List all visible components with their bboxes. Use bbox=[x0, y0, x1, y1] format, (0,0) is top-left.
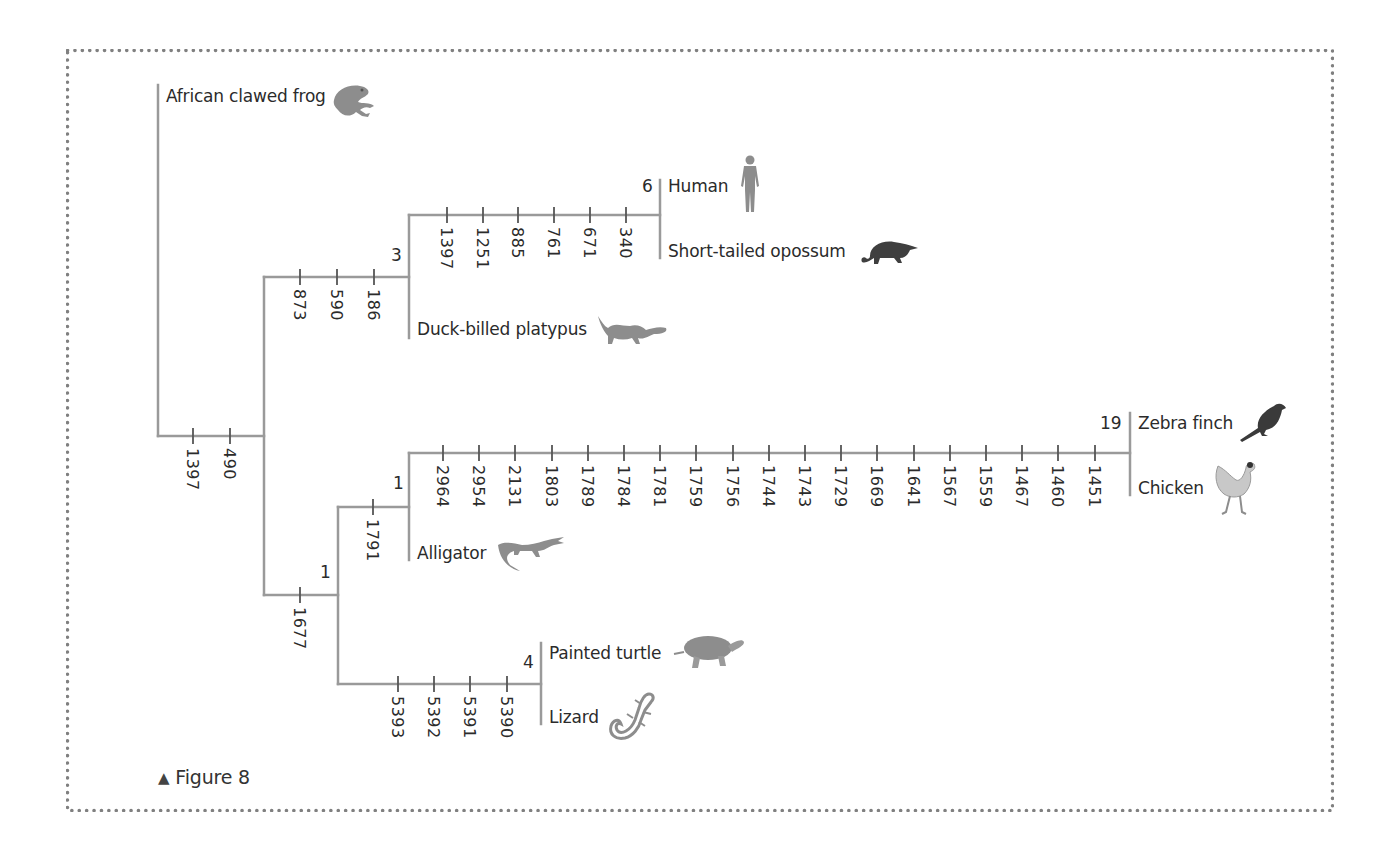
node-count-reptiles: 1 bbox=[320, 562, 331, 582]
taxon-label-short-tailed-opossum: Short-tailed opossum bbox=[668, 241, 846, 261]
taxon-label-human: Human bbox=[668, 176, 728, 196]
taxon-label-painted-turtle: Painted turtle bbox=[549, 643, 661, 663]
alligator-icon bbox=[494, 535, 566, 573]
taxon-label-lizard: Lizard bbox=[549, 707, 599, 727]
tick-label-birds: 1641 bbox=[904, 465, 923, 508]
tick-label-lepidosaur_turtle: 5392 bbox=[424, 696, 443, 739]
tick-label-birds: 1781 bbox=[650, 465, 669, 508]
tick-label-mammals: 590 bbox=[327, 289, 346, 321]
taxon-label-alligator: Alligator bbox=[417, 543, 486, 563]
tick-label-therians: 761 bbox=[544, 227, 563, 259]
tick-label-birds: 1743 bbox=[795, 465, 814, 508]
figure-caption: ▲Figure 8 bbox=[158, 766, 250, 788]
tick-label-archosaurs: 1791 bbox=[363, 519, 382, 562]
tick-label-therians: 340 bbox=[616, 227, 635, 259]
tick-label-lepidosaur_turtle: 5393 bbox=[388, 696, 407, 739]
node-count-finch-chicken: 19 bbox=[1100, 413, 1122, 433]
tick-label-birds: 1559 bbox=[976, 465, 995, 508]
tick-label-birds: 1460 bbox=[1048, 465, 1067, 508]
tick-label-therians: 1397 bbox=[437, 227, 456, 270]
tick-label-birds: 1789 bbox=[578, 465, 597, 508]
chicken-icon bbox=[1212, 460, 1260, 518]
tick-label-birds: 1744 bbox=[759, 465, 778, 508]
tick-label-root: 490 bbox=[220, 448, 239, 480]
tick-label-mammals: 873 bbox=[290, 289, 309, 321]
taxon-label-duck-billed-platypus: Duck-billed platypus bbox=[417, 319, 587, 339]
tick-label-lepidosaur_turtle: 5390 bbox=[497, 696, 516, 739]
tick-label-therians: 671 bbox=[580, 227, 599, 259]
phylogenetic-tree-figure: African clawed frog Human Short-tailed o… bbox=[0, 0, 1394, 854]
human-icon bbox=[737, 154, 763, 216]
tick-label-therians: 885 bbox=[508, 227, 527, 259]
tick-label-birds: 1759 bbox=[686, 465, 705, 508]
node-count-mammals: 3 bbox=[391, 245, 402, 265]
node-count-human-opossum: 6 bbox=[642, 176, 653, 196]
tick-label-birds: 1669 bbox=[867, 465, 886, 508]
figure-caption-text: Figure 8 bbox=[175, 766, 250, 788]
platypus-icon bbox=[596, 312, 670, 348]
tick-label-birds: 2131 bbox=[505, 465, 524, 508]
tick-label-birds: 2954 bbox=[469, 465, 488, 508]
tick-label-reptiles: 1677 bbox=[290, 607, 309, 650]
taxon-label-zebra-finch: Zebra finch bbox=[1138, 413, 1233, 433]
tick-label-birds: 1756 bbox=[723, 465, 742, 508]
opossum-icon bbox=[860, 236, 920, 266]
tick-label-mammals: 186 bbox=[364, 289, 383, 321]
taxon-label-chicken: Chicken bbox=[1138, 478, 1204, 498]
tick-label-birds: 1467 bbox=[1012, 465, 1031, 508]
tick-label-therians: 1251 bbox=[473, 227, 492, 270]
turtle-icon bbox=[672, 630, 746, 670]
tick-label-lepidosaur_turtle: 5391 bbox=[460, 696, 479, 739]
tick-label-birds: 1729 bbox=[831, 465, 850, 508]
tick-label-birds: 1451 bbox=[1085, 465, 1104, 508]
bird-icon bbox=[1238, 400, 1288, 444]
frog-icon bbox=[330, 80, 378, 122]
node-count-turtle-lizard: 4 bbox=[523, 652, 534, 672]
tick-label-birds: 2964 bbox=[433, 465, 452, 508]
tick-label-birds: 1784 bbox=[614, 465, 633, 508]
lizard-icon bbox=[605, 690, 661, 744]
taxon-label-african-clawed-frog: African clawed frog bbox=[166, 86, 326, 106]
triangle-marker-icon: ▲ bbox=[158, 769, 169, 787]
tick-label-root: 1397 bbox=[183, 448, 202, 491]
tick-label-birds: 1567 bbox=[940, 465, 959, 508]
node-count-archosaurs: 1 bbox=[393, 473, 404, 493]
tick-label-birds: 1803 bbox=[542, 465, 561, 508]
